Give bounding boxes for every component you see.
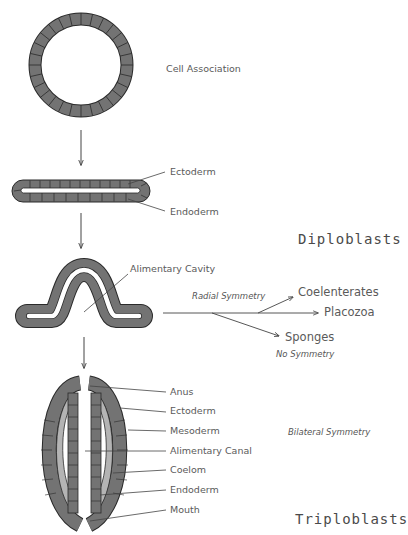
label-radial-symmetry: Radial Symmetry — [192, 292, 265, 301]
label-ectoderm-2: Ectoderm — [170, 406, 216, 416]
label-alimentary-canal: Alimentary Canal — [170, 446, 252, 456]
label-sponges: Sponges — [285, 332, 334, 344]
label-cell-association: Cell Association — [166, 64, 241, 74]
label-coelom: Coelom — [170, 465, 206, 475]
label-ectoderm-1: Ectoderm — [170, 167, 216, 177]
label-mouth: Mouth — [170, 505, 200, 515]
cell-ring — [29, 13, 133, 117]
label-alimentary-cavity: Alimentary Cavity — [130, 264, 215, 274]
folded-diploblast — [27, 270, 141, 316]
label-endoderm-2: Endoderm — [170, 485, 219, 495]
label-mesoderm: Mesoderm — [170, 426, 220, 436]
label-diploblasts: Diploblasts — [298, 232, 402, 246]
triploblast-body — [41, 383, 128, 525]
label-placozoa: Placozoa — [324, 307, 375, 319]
label-endoderm-1: Endoderm — [170, 207, 219, 217]
label-anus: Anus — [170, 387, 194, 397]
label-bilateral-symmetry: Bilateral Symmetry — [288, 428, 370, 437]
arrow-sponges — [212, 313, 279, 336]
label-coelenterates: Coelenterates — [298, 287, 379, 299]
label-no-symmetry: No Symmetry — [276, 350, 334, 359]
label-triploblasts: Triploblasts — [295, 512, 408, 526]
